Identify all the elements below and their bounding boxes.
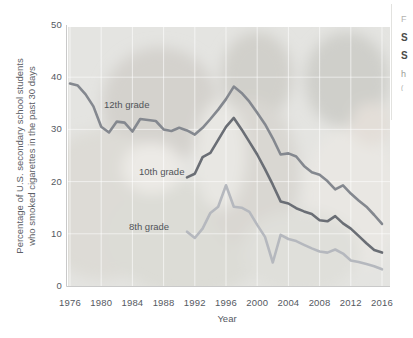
x-tick-label-1992: 1992 (178, 297, 212, 308)
y-tick-label-40: 40 (38, 71, 62, 82)
x-tick-label-1984: 1984 (115, 297, 149, 308)
figure-smoking-trends-chart: Percentage of U.S. secondary school stud… (0, 0, 413, 338)
x-tick-label-2000: 2000 (240, 297, 274, 308)
y-axis-title-line2: who smoked cigarettes in the past 30 day… (25, 26, 37, 286)
x-tick-label-2016: 2016 (365, 297, 399, 308)
caption-fragment-body: h (401, 69, 413, 79)
x-tick-label-2004: 2004 (271, 297, 305, 308)
y-tick-label-50: 50 (38, 19, 62, 30)
x-tick-label-1976: 1976 (53, 297, 87, 308)
y-tick-label-10: 10 (38, 228, 62, 239)
y-tick-label-0: 0 (38, 280, 62, 291)
series-label-12th-grade: 12th grade (104, 99, 149, 110)
x-tick-label-1980: 1980 (84, 297, 118, 308)
y-axis-title-line1: Percentage of U.S. secondary school stud… (14, 26, 26, 286)
caption-fragment-source: ( (401, 84, 413, 91)
caption-fragment-title-line1: S (401, 32, 413, 43)
series-label-10th-grade: 10th grade (139, 166, 184, 177)
x-tick-label-1988: 1988 (147, 297, 181, 308)
x-axis-title: Year (205, 313, 249, 324)
y-axis-title: Percentage of U.S. secondary school stud… (14, 26, 37, 286)
caption-fragment-figure-label: F (401, 14, 413, 24)
x-tick-label-2012: 2012 (334, 297, 368, 308)
page-edge-divider (391, 4, 392, 120)
caption-fragment-title-line2: S (401, 50, 413, 61)
x-tick-label-2008: 2008 (303, 297, 337, 308)
series-label-8th-grade: 8th grade (129, 221, 169, 232)
x-tick-label-1996: 1996 (209, 297, 243, 308)
y-tick-label-30: 30 (38, 123, 62, 134)
y-tick-label-20: 20 (38, 176, 62, 187)
